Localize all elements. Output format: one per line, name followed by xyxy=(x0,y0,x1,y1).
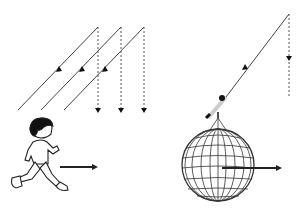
running-boy xyxy=(12,118,69,191)
telescope xyxy=(206,95,226,130)
boy-motion-arrow xyxy=(60,164,98,170)
vertical-rain-arrowheads xyxy=(95,108,147,113)
diagram-canvas xyxy=(0,0,302,218)
earth-globe xyxy=(182,129,254,201)
slanted-rain-arrowheads xyxy=(56,66,108,72)
slanted-light-ray xyxy=(226,14,289,97)
vertical-dotted-true-ray xyxy=(286,14,292,98)
light-ray-arrowhead xyxy=(242,64,248,70)
